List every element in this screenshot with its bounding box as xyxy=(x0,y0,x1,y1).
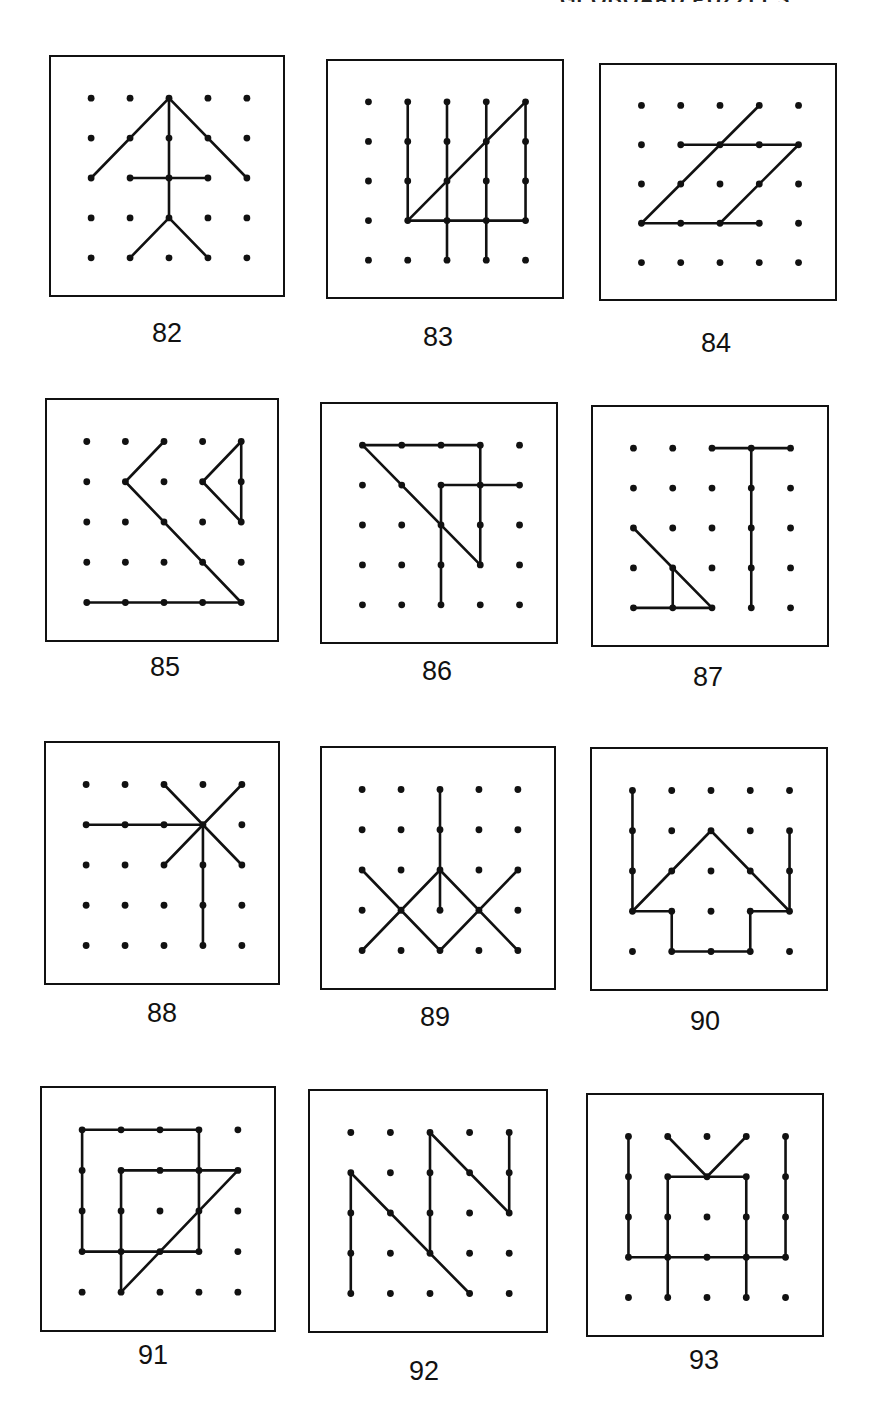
peg-dot xyxy=(200,781,207,788)
peg-dot xyxy=(157,1248,164,1255)
rubber-band-segment xyxy=(408,102,526,221)
peg-dot xyxy=(359,522,366,529)
peg-dot xyxy=(83,902,90,909)
peg-dot xyxy=(404,138,411,145)
peg-dot xyxy=(664,1173,671,1180)
peg-dot xyxy=(747,827,754,834)
peg-dot xyxy=(437,786,444,793)
rubber-band-segment xyxy=(121,1170,238,1292)
geoboard-84 xyxy=(599,63,837,301)
peg-dot xyxy=(638,141,645,148)
peg-dot xyxy=(238,519,245,526)
peg-dot xyxy=(717,259,724,266)
peg-dot xyxy=(438,442,445,449)
peg-dot xyxy=(398,442,405,449)
peg-dot xyxy=(118,1126,125,1133)
peg-dot xyxy=(709,485,716,492)
peg-dot xyxy=(166,135,173,142)
puzzle-number: 82 xyxy=(127,318,207,349)
peg-dot xyxy=(427,1169,434,1176)
peg-dot xyxy=(629,948,636,955)
peg-diagram xyxy=(588,1095,826,1339)
peg-dot xyxy=(199,599,206,606)
peg-dot xyxy=(748,525,755,532)
peg-dot xyxy=(630,445,637,452)
peg-dot xyxy=(787,565,794,572)
peg-dot xyxy=(166,215,173,222)
peg-dot xyxy=(161,821,168,828)
peg-dot xyxy=(669,604,676,611)
peg-dot xyxy=(638,102,645,109)
geoboard-89 xyxy=(320,746,556,990)
peg-dot xyxy=(483,217,490,224)
peg-dot xyxy=(157,1289,164,1296)
peg-dot xyxy=(199,519,206,526)
peg-dot xyxy=(629,787,636,794)
peg-dot xyxy=(522,178,529,185)
peg-dot xyxy=(668,948,675,955)
peg-dot xyxy=(516,562,523,569)
peg-dot xyxy=(709,604,716,611)
peg-dot xyxy=(200,942,207,949)
peg-dot xyxy=(786,948,793,955)
peg-dot xyxy=(438,522,445,529)
peg-diagram xyxy=(42,1088,278,1334)
peg-dot xyxy=(743,1133,750,1140)
geoboard-85 xyxy=(45,398,279,642)
peg-dot xyxy=(795,181,802,188)
peg-dot xyxy=(387,1169,394,1176)
peg-dot xyxy=(438,601,445,608)
peg-diagram xyxy=(322,404,560,646)
peg-dot xyxy=(625,1294,632,1301)
peg-dot xyxy=(234,1208,241,1215)
peg-dot xyxy=(677,141,684,148)
peg-dot xyxy=(398,786,405,793)
peg-dot xyxy=(782,1214,789,1221)
peg-dot xyxy=(516,601,523,608)
peg-dot xyxy=(669,445,676,452)
peg-dot xyxy=(506,1250,513,1257)
peg-dot xyxy=(427,1129,434,1136)
peg-dot xyxy=(161,438,168,445)
peg-dot xyxy=(122,862,129,869)
peg-dot xyxy=(243,254,250,261)
peg-dot xyxy=(717,220,724,227)
peg-dot xyxy=(157,1208,164,1215)
peg-dot xyxy=(118,1289,125,1296)
peg-dot xyxy=(88,254,95,261)
peg-dot xyxy=(438,562,445,569)
peg-dot xyxy=(664,1133,671,1140)
peg-dot xyxy=(243,215,250,222)
peg-dot xyxy=(359,907,366,914)
peg-dot xyxy=(748,445,755,452)
peg-dot xyxy=(625,1254,632,1261)
peg-dot xyxy=(669,565,676,572)
rubber-band-segment xyxy=(203,482,242,522)
peg-dot xyxy=(677,259,684,266)
peg-dot xyxy=(200,821,207,828)
peg-dot xyxy=(88,135,95,142)
peg-diagram xyxy=(322,748,558,992)
peg-dot xyxy=(398,907,405,914)
peg-dot xyxy=(668,827,675,834)
peg-dot xyxy=(83,942,90,949)
peg-dot xyxy=(466,1129,473,1136)
peg-dot xyxy=(629,827,636,834)
peg-dot xyxy=(717,141,724,148)
peg-dot xyxy=(748,565,755,572)
rubber-band-segment xyxy=(203,441,242,481)
peg-dot xyxy=(437,867,444,874)
puzzle-number: 86 xyxy=(397,656,477,687)
peg-dot xyxy=(748,485,755,492)
peg-dot xyxy=(437,947,444,954)
peg-dot xyxy=(444,217,451,224)
peg-dot xyxy=(625,1133,632,1140)
peg-dot xyxy=(83,599,90,606)
peg-dot xyxy=(238,821,245,828)
peg-dot xyxy=(122,821,129,828)
peg-dot xyxy=(743,1173,750,1180)
peg-dot xyxy=(625,1173,632,1180)
peg-dot xyxy=(677,220,684,227)
peg-dot xyxy=(359,442,366,449)
peg-dot xyxy=(205,95,212,102)
